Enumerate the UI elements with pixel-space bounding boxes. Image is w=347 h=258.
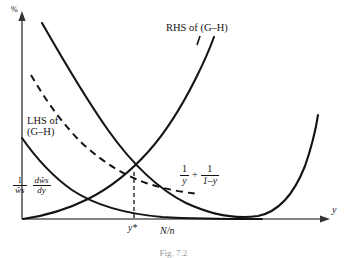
rhs-term2-denominator: 1–y [201,175,219,187]
rhs-expression-operator: + [189,170,201,181]
rhs-expression: 1 y + 1 1–y [180,164,219,186]
lhs-expression: 1 ŵs dŵs dy [13,176,51,196]
x-axis-variable-label: N/n [160,226,174,237]
rhs-term1-denominator: y [180,175,189,187]
lhs-term1-denominator: ŵs [13,185,27,195]
lhs-curve-label-line2: (G–H) [27,126,54,137]
rhs-term1-numerator: 1 [180,164,189,175]
lhs-term1-numerator: 1 [13,176,27,185]
lhs-expression-term2: dŵs dy [33,176,51,196]
equilibrium-label: y* [128,224,137,234]
rhs-expression-term2: 1 1–y [201,164,219,186]
rhs-label-leader [197,36,200,45]
lhs-curve-label-line1: LHS of [27,115,58,126]
lhs-term2-denominator: dy [33,185,51,195]
lhs-expression-term1: 1 ŵs [13,176,27,196]
curve-rhs-gh [42,23,318,217]
lhs-term2-numerator: dŵs [33,176,51,185]
y-axis-label: % [11,6,18,14]
x-axis [22,215,330,222]
rhs-curve-label: RHS of (G–H) [166,22,228,33]
figure-container: % y N/n RHS of (G–H) LHS of (G–H) y* 1 ŵ… [0,0,347,258]
x-axis-label: y [332,205,336,216]
figure-caption: Fig. 7.2 [0,248,347,258]
rhs-term2-numerator: 1 [201,164,219,175]
lhs-curve-label: LHS of (G–H) [27,115,58,137]
curve-lhs-gh-solid [22,138,262,219]
rhs-expression-term1: 1 y [180,164,189,186]
